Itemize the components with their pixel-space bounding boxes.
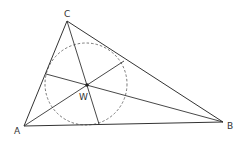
bisector-c — [67, 21, 99, 124]
label-a: A — [14, 126, 21, 136]
label-c: C — [64, 9, 70, 19]
bisector-b — [46, 74, 223, 122]
label-w: W — [79, 92, 88, 102]
incircle-diagram: A B C W — [0, 0, 245, 143]
bisector-a — [24, 61, 124, 126]
triangle-abc — [24, 21, 223, 126]
incenter-point — [85, 83, 89, 87]
label-b: B — [227, 121, 233, 131]
